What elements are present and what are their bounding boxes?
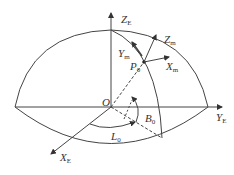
coordinate-diagram: ZE Zm Ym P0 Xm O B0 YE L0 XE	[0, 0, 234, 175]
label-p0: P0	[129, 60, 141, 74]
label-y-e: YE	[216, 111, 226, 125]
diagram-svg: ZE Zm Ym P0 Xm O B0 YE L0 XE	[0, 0, 234, 175]
local-z-arrow	[144, 35, 156, 62]
label-l0: L0	[110, 130, 121, 144]
longitude-angle-arc	[90, 122, 135, 128]
label-z-e: ZE	[121, 13, 131, 27]
x-axis-arrow	[51, 107, 111, 154]
label-x-m: Xm	[165, 60, 179, 74]
latitude-angle-arc	[132, 97, 138, 122]
label-origin: O	[102, 96, 110, 108]
label-z-m: Zm	[164, 33, 176, 47]
label-y-m: Ym	[118, 47, 130, 61]
label-b0: B0	[145, 112, 156, 126]
local-y-arrow	[132, 42, 142, 56]
label-x-e: XE	[59, 151, 71, 165]
